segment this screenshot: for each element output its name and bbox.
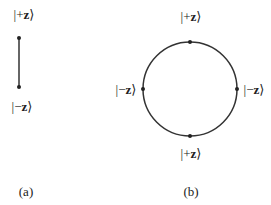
ket-sign: + bbox=[16, 7, 23, 22]
ket-close: ⟩ bbox=[27, 99, 32, 114]
panel-b-bottom-ket-label: |+z⟩ bbox=[181, 147, 202, 160]
panel-b-right-ket-label: |−z⟩ bbox=[244, 83, 265, 96]
panel-b-left-ket-label: |−z⟩ bbox=[116, 83, 137, 96]
panel-b-top-ket-label: |+z⟩ bbox=[181, 10, 202, 23]
ket-close: ⟩ bbox=[131, 82, 136, 97]
panel-a-top-ket-label: |+z⟩ bbox=[14, 8, 35, 21]
ket-sign: + bbox=[183, 146, 190, 161]
ket-close: ⟩ bbox=[196, 9, 201, 24]
panel-a-caption: (a) bbox=[19, 185, 33, 198]
panel-a-line-segment bbox=[17, 36, 21, 89]
ket-close: ⟩ bbox=[29, 7, 34, 22]
panel-b-circle bbox=[141, 40, 239, 138]
panel-a-bottom-ket-label: |−z⟩ bbox=[12, 100, 33, 113]
panel-b-caption: (b) bbox=[183, 185, 198, 198]
ket-sign: − bbox=[246, 82, 253, 97]
diagram-canvas bbox=[0, 0, 271, 205]
ket-close: ⟩ bbox=[259, 82, 264, 97]
ket-close: ⟩ bbox=[196, 146, 201, 161]
ket-sign: − bbox=[14, 99, 21, 114]
ket-sign: − bbox=[118, 82, 125, 97]
ket-sign: + bbox=[183, 9, 190, 24]
